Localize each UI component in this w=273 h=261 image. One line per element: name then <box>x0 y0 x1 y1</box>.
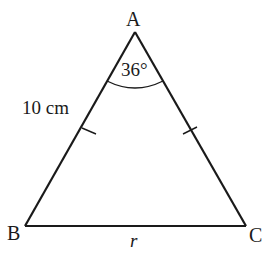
vertex-label-c: C <box>249 224 262 246</box>
tick-mark-ab <box>82 128 96 134</box>
angle-arc <box>107 81 163 88</box>
base-label: r <box>130 230 138 251</box>
vertex-label-a: A <box>126 8 141 30</box>
triangle-diagram: A B C 36° 10 cm r <box>0 0 273 261</box>
side-ab <box>25 32 135 226</box>
side-ac <box>135 32 246 226</box>
side-length-label: 10 cm <box>22 97 69 118</box>
angle-label: 36° <box>121 59 148 80</box>
vertex-label-b: B <box>7 222 20 244</box>
